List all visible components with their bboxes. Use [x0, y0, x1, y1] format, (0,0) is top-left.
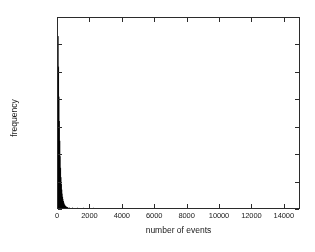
x-tick-mark [89, 204, 90, 208]
x-tick-mark-top [122, 18, 123, 22]
x-tick-mark-top [154, 18, 155, 22]
y-tick-mark-right [295, 154, 299, 155]
x-tick-label: 4000 [114, 211, 130, 220]
x-tick-label: 0 [55, 211, 59, 220]
y-tick-mark [58, 154, 62, 155]
x-tick-mark [284, 204, 285, 208]
y-tick-mark-right [295, 209, 299, 210]
x-tick-mark [122, 204, 123, 208]
x-tick-mark-top [187, 18, 188, 22]
x-tick-label: 8000 [178, 211, 194, 220]
x-tick-label: 2000 [81, 211, 97, 220]
y-tick-mark-right [295, 44, 299, 45]
x-tick-label: 6000 [146, 211, 162, 220]
y-tick-mark-right [295, 182, 299, 183]
x-tick-mark-top [57, 18, 58, 22]
y-tick-mark [58, 209, 62, 210]
x-tick-mark [57, 204, 58, 208]
x-tick-mark-top [251, 18, 252, 22]
x-tick-label: 10000 [209, 211, 229, 220]
y-tick-mark [58, 72, 62, 73]
x-tick-mark-top [89, 18, 90, 22]
x-tick-mark-top [219, 18, 220, 22]
x-tick-mark [251, 204, 252, 208]
x-tick-mark [219, 204, 220, 208]
x-tick-label: 12000 [241, 211, 261, 220]
y-axis-title: frequency [9, 78, 19, 158]
y-tick-mark [58, 44, 62, 45]
y-tick-mark [58, 182, 62, 183]
histogram-bars [58, 18, 299, 208]
x-tick-mark [154, 204, 155, 208]
x-axis-title: number of events [57, 225, 300, 235]
y-tick-mark-right [295, 17, 299, 18]
x-tick-label: 14000 [274, 211, 294, 220]
y-tick-mark-right [295, 99, 299, 100]
x-tick-mark [187, 204, 188, 208]
x-tick-mark-top [284, 18, 285, 22]
histogram-figure: 0200040006000800010000120001400002000400… [0, 0, 315, 252]
y-tick-mark [58, 127, 62, 128]
y-tick-mark-right [295, 72, 299, 73]
y-tick-mark [58, 17, 62, 18]
y-tick-mark [58, 99, 62, 100]
plot-area [57, 17, 300, 209]
y-tick-mark-right [295, 127, 299, 128]
